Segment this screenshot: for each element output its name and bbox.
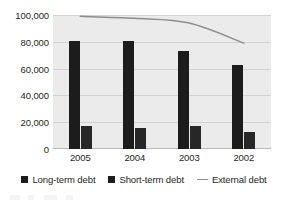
square-swatch-icon [21, 176, 28, 183]
bar-short-term-debt-2003 [190, 126, 201, 149]
bar-short-term-debt-2002 [244, 132, 255, 149]
x-axis-tick-label: 2002 [233, 152, 254, 163]
legend-label: Long-term debt [32, 174, 95, 185]
y-axis-tick-label: 20,000 [21, 117, 49, 128]
legend-label: External debt [212, 174, 267, 185]
x-axis-labels: 2005200420032002 [53, 152, 271, 168]
legend-item-external-debt: External debt [197, 174, 267, 185]
bar-short-term-debt-2005 [81, 126, 92, 149]
y-axis-tick-label: 40,000 [21, 90, 49, 101]
line-swatch-icon [197, 179, 208, 180]
y-axis-tick-label: 60,000 [21, 63, 49, 74]
x-axis-tick-label: 2003 [179, 152, 200, 163]
y-axis-tick-label: 80,000 [21, 36, 49, 47]
bars-layer [53, 15, 271, 149]
square-swatch-icon [108, 176, 115, 183]
bar-long-term-debt-2003 [178, 51, 189, 149]
bar-short-term-debt-2004 [135, 128, 146, 149]
bar-long-term-debt-2002 [232, 65, 243, 149]
x-axis-tick-label: 2005 [70, 152, 91, 163]
bar-long-term-debt-2004 [123, 41, 134, 149]
y-axis-tick-label: 0 [44, 144, 49, 155]
y-axis-tick-label: 100,000 [15, 10, 49, 21]
chart-legend: Long-term debt Short-term debt External … [0, 170, 288, 188]
y-axis-labels: 020,00040,00060,00080,000100,000 [0, 15, 49, 149]
bar-long-term-debt-2005 [69, 41, 80, 149]
scan-artifact [10, 195, 130, 200]
debt-bar-chart: 020,00040,00060,00080,000100,000 2005200… [0, 0, 288, 205]
legend-item-short-term-debt: Short-term debt [108, 174, 184, 185]
legend-item-long-term-debt: Long-term debt [21, 174, 95, 185]
legend-label: Short-term debt [119, 174, 184, 185]
x-axis-tick-label: 2004 [124, 152, 145, 163]
